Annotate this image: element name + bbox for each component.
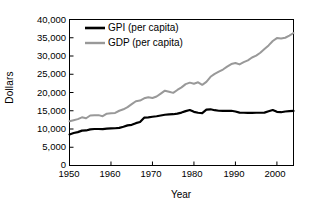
series-line-gpi <box>70 109 294 134</box>
legend-label-gdp: GDP (per capita) <box>108 37 183 48</box>
legend-label-gpi: GPI (per capita) <box>108 22 179 33</box>
chart-container: Dollars 40,000 35,000 30,000 25,000 20,0… <box>0 0 311 207</box>
